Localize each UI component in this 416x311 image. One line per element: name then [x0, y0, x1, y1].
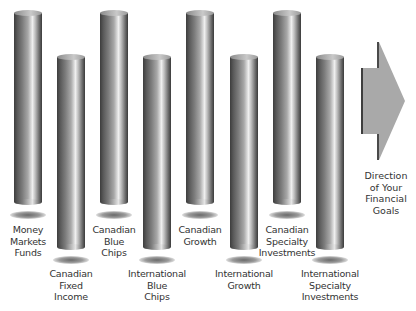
pillar-shadow: [182, 211, 218, 219]
investment-pillars-diagram: Money Markets Funds Canadian Fixed Incom…: [0, 0, 416, 311]
label-canadian-fixed-income: Canadian Fixed Income: [31, 268, 111, 303]
label-international-blue-chips: International Blue Chips: [117, 268, 197, 303]
label-canadian-growth: Canadian Growth: [160, 224, 240, 247]
pillar-international-specialty-investments: [316, 57, 344, 247]
right-arrow-icon: [355, 38, 411, 164]
pillar-money-markets-funds: [14, 13, 42, 202]
label-canadian-blue-chips: Canadian Blue Chips: [74, 224, 154, 259]
pillar-international-blue-chips: [143, 57, 171, 247]
pillar-shadow: [269, 211, 305, 219]
pillar-canadian-blue-chips: [100, 13, 128, 202]
pillar-canadian-growth: [186, 13, 214, 202]
label-canadian-specialty-investments: Canadian Specialty Investments: [247, 224, 327, 259]
pillar-international-growth: [230, 57, 258, 247]
pillar-shadow: [10, 211, 46, 219]
pillar-canadian-specialty-investments: [273, 13, 301, 202]
pillar-shadow: [139, 256, 175, 264]
pillar-shadow: [96, 211, 132, 219]
label-international-specialty-investments: International Specialty Investments: [290, 268, 370, 303]
label-international-growth: International Growth: [204, 268, 284, 291]
pillar-canadian-fixed-income: [57, 57, 85, 247]
label-direction-of-your-financial-goals: Direction of Your Financial Goals: [356, 170, 416, 216]
pillar-shadow: [312, 256, 348, 264]
